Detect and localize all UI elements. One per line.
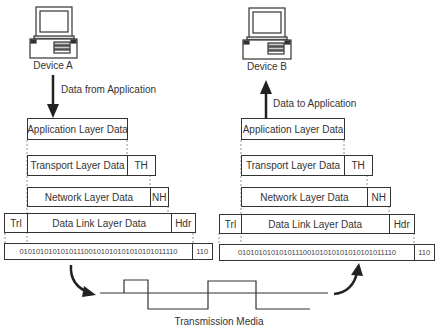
datalink-trailer-box-right: Trl [219, 214, 242, 234]
datalink-data-label: Data Link Layer Data [52, 218, 146, 229]
datalink-trailer-label: Trl [225, 219, 236, 230]
arrow-up-icon [260, 80, 272, 118]
physical-bits-label: 010101010101011100101010101010101011110 [238, 248, 396, 257]
network-data-label: Network Layer Data [45, 192, 133, 203]
physical-bits-label: 010101010101011100101010101010101011110 [20, 247, 178, 256]
network-header-label: NH [371, 192, 385, 203]
application-layer-box-left: Application Layer Data [27, 118, 128, 140]
signal-waveform [100, 280, 328, 309]
application-layer-box-right: Application Layer Data [241, 118, 345, 140]
physical-header-label: 110 [418, 248, 430, 257]
datalink-data-label: Data Link Layer Data [268, 219, 362, 230]
transport-data-box-left: Transport Layer Data [27, 155, 128, 176]
arrow-down-icon [47, 75, 59, 118]
transport-data-box-right: Transport Layer Data [241, 155, 345, 176]
curved-arrow-from-media-icon [334, 263, 363, 294]
transport-header-label: TH [352, 160, 365, 171]
physical-header-label: 110 [196, 247, 208, 256]
transport-header-box-right: TH [344, 155, 373, 176]
application-data-label: Application Layer Data [27, 124, 128, 135]
computer-icon-device-b [243, 8, 291, 59]
datalink-trailer-box-left: Trl [4, 213, 28, 233]
network-header-label: NH [152, 192, 166, 203]
datalink-data-box-right: Data Link Layer Data [241, 214, 390, 234]
transport-header-label: TH [135, 160, 148, 171]
device-a-label: Device A [33, 60, 72, 71]
physical-bits-box-left: 010101010101011100101010101010101011110 [4, 243, 193, 260]
datalink-header-box-left: Hdr [171, 213, 196, 233]
computer-icon-device-a [30, 7, 77, 58]
transmission-media-label: Transmission Media [174, 316, 263, 327]
network-data-box-left: Network Layer Data [27, 187, 151, 207]
curved-arrow-to-media-icon [71, 265, 96, 297]
network-data-label: Network Layer Data [260, 192, 348, 203]
device-b-label: Device B [247, 61, 287, 72]
network-header-box-right: NH [367, 187, 391, 207]
datalink-header-box-right: Hdr [389, 214, 415, 234]
datalink-header-label: Hdr [175, 218, 191, 229]
datalink-trailer-label: Trl [10, 218, 21, 229]
physical-header-box-left: 110 [192, 243, 213, 260]
datalink-header-label: Hdr [394, 219, 410, 230]
physical-header-box-right: 110 [414, 244, 435, 261]
flow-label-left: Data from Application [61, 84, 156, 95]
network-header-box-left: NH [150, 187, 169, 207]
physical-bits-box-right: 010101010101011100101010101010101011110 [219, 244, 415, 261]
network-data-box-right: Network Layer Data [241, 187, 368, 207]
transport-data-label: Transport Layer Data [246, 160, 340, 171]
flow-label-right: Data to Application [273, 98, 356, 109]
application-data-label: Application Layer Data [243, 124, 344, 135]
transport-data-label: Transport Layer Data [30, 160, 124, 171]
transport-header-box-left: TH [127, 155, 156, 176]
datalink-data-box-left: Data Link Layer Data [27, 213, 172, 233]
